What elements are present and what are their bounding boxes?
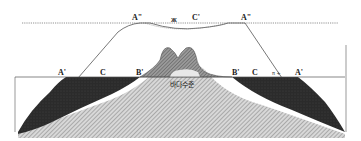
label-small-marks-right: π +	[272, 70, 281, 76]
label-c-prime-marker: ж	[171, 15, 177, 24]
label-c-left: C	[100, 68, 106, 77]
label-b-prime-left: B'	[136, 68, 144, 77]
label-a-prime-right: A'	[295, 68, 303, 77]
label-a-double-left: A"	[132, 13, 142, 22]
label-a-prime-left: A'	[58, 68, 66, 77]
label-b-prime-right: B'	[232, 68, 240, 77]
label-small-marks-left: ᵥ	[76, 74, 78, 80]
label-c-prime: C'	[192, 13, 200, 22]
label-a-double-right: A"	[241, 13, 251, 22]
label-c-right: C	[252, 68, 258, 77]
reef-cross-section-diagram: A" ж C' A" A' ᵥ C B' B' C π + A' 바다수준	[0, 0, 361, 141]
label-sea-level: 바다수준	[170, 80, 195, 89]
